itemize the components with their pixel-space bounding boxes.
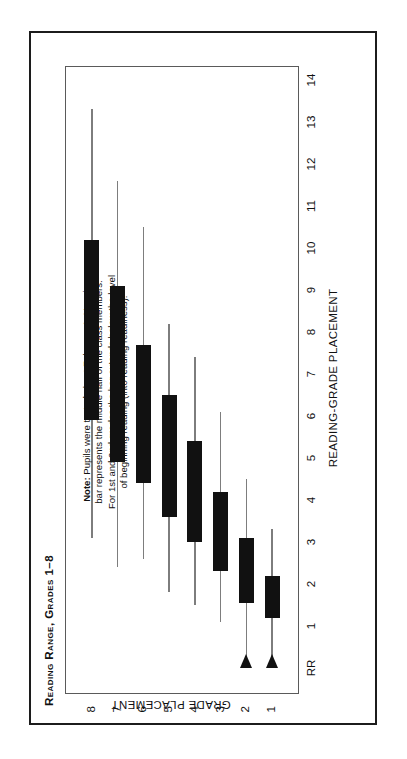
x-tick-13: 13	[305, 109, 317, 135]
rotated-figure-stage: Reading Range, Grades 1–8 Note: Pupils w…	[47, 50, 359, 706]
chart-note-label: Note:	[81, 477, 92, 502]
bar-row-grade-3	[208, 66, 234, 694]
bar-row-grade-4	[182, 66, 208, 694]
middle-half-bar-grade-3	[213, 492, 228, 572]
x-tick-1: 1	[305, 613, 317, 639]
bar-row-grade-5	[156, 66, 182, 694]
x-tick-10: 10	[305, 235, 317, 261]
y-tick-grade-5: 5	[162, 706, 174, 722]
x-tick-9: 9	[305, 277, 317, 303]
chart-note: Note: Pupils were tested about February …	[81, 274, 131, 510]
y-tick-grade-1: 1	[265, 706, 277, 722]
x-tick-12: 12	[305, 151, 317, 177]
y-tick-grade-3: 3	[214, 706, 226, 722]
middle-half-bar-grade-4	[187, 441, 202, 542]
x-tick-14: 14	[305, 67, 317, 93]
chart-note-text: Pupils were tested about February 1. Hea…	[81, 275, 129, 509]
x-tick-8: 8	[305, 319, 317, 345]
bar-row-grade-1	[259, 66, 285, 694]
x-tick-2: 2	[305, 571, 317, 597]
y-tick-grade-7: 7	[111, 706, 123, 722]
y-tick-grade-4: 4	[188, 706, 200, 722]
middle-half-bar-grade-2	[239, 538, 254, 603]
bar-row-grade-6	[130, 66, 156, 694]
y-tick-grade-6: 6	[136, 706, 148, 722]
x-tick-6: 6	[305, 403, 317, 429]
bar-row-grade-2	[233, 66, 259, 694]
y-tick-grade-2: 2	[239, 706, 251, 722]
middle-half-bar-grade-6	[136, 345, 151, 484]
rr-arrow-grade-2	[240, 654, 252, 668]
x-tick-4: 4	[305, 487, 317, 513]
x-tick-3: 3	[305, 529, 317, 555]
rr-arrow-grade-1	[266, 654, 278, 668]
y-tick-grade-8: 8	[85, 706, 97, 722]
middle-half-bar-grade-1	[265, 576, 280, 618]
chart-title: Reading Range, Grades 1–8	[43, 50, 55, 706]
x-tick-5: 5	[305, 445, 317, 471]
middle-half-bar-grade-5	[162, 395, 177, 517]
x-tick-rr: RR	[305, 655, 317, 681]
x-tick-11: 11	[305, 193, 317, 219]
figure-outer-border: Reading Range, Grades 1–8 Note: Pupils w…	[29, 31, 377, 725]
x-tick-7: 7	[305, 361, 317, 387]
x-axis-title: READING-GRADE PLACEMENT	[327, 50, 339, 706]
